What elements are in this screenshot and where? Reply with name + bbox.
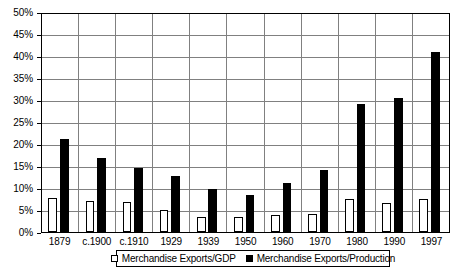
bar xyxy=(60,139,69,232)
category-group xyxy=(79,14,116,232)
bar xyxy=(246,195,255,232)
bar xyxy=(134,168,143,232)
bar xyxy=(234,217,243,232)
legend-item-exports-production: Merchandise Exports/Production xyxy=(246,253,396,264)
category-group xyxy=(190,14,227,232)
bar xyxy=(382,203,391,232)
bar xyxy=(97,158,106,232)
bar xyxy=(171,176,180,232)
bar xyxy=(160,210,169,232)
y-axis: 50%45%40%35%30%25%20%15%10%5%0% xyxy=(0,0,38,272)
legend-label-exports-production: Merchandise Exports/Production xyxy=(257,253,396,264)
y-tick-label: 35% xyxy=(13,74,33,84)
y-tick-mark xyxy=(37,233,41,234)
category-group xyxy=(227,14,264,232)
bar xyxy=(123,202,132,232)
bar xyxy=(308,214,317,232)
category-group xyxy=(42,14,79,232)
y-tick-label: 0% xyxy=(19,228,33,238)
bar xyxy=(431,52,440,232)
category-group xyxy=(116,14,153,232)
category-group xyxy=(413,14,449,232)
open-square-icon xyxy=(111,255,118,262)
category-group xyxy=(376,14,413,232)
bar xyxy=(345,199,354,232)
bar xyxy=(208,189,217,232)
solid-square-icon xyxy=(246,255,253,262)
y-tick-label: 50% xyxy=(13,8,33,18)
bar xyxy=(283,183,292,232)
category-group xyxy=(153,14,190,232)
bar xyxy=(48,198,57,232)
y-tick-label: 20% xyxy=(13,140,33,150)
legend-item-exports-gdp: Merchandise Exports/GDP xyxy=(111,253,236,264)
bar xyxy=(271,215,280,232)
category-group xyxy=(339,14,376,232)
x-tick-label: 1879 xyxy=(41,236,78,252)
chart-legend: Merchandise Exports/GDP Merchandise Expo… xyxy=(116,250,390,267)
bar xyxy=(320,170,329,232)
bar xyxy=(357,104,366,232)
y-tick-label: 15% xyxy=(13,162,33,172)
legend-label-exports-gdp: Merchandise Exports/GDP xyxy=(122,253,236,264)
y-tick-label: 5% xyxy=(19,206,33,216)
bars-layer xyxy=(42,14,449,232)
y-tick-label: 40% xyxy=(13,52,33,62)
category-group xyxy=(302,14,339,232)
category-group xyxy=(265,14,302,232)
x-tick-label: 1997 xyxy=(413,236,450,252)
y-tick-label: 10% xyxy=(13,184,33,194)
bar-chart: 50%45%40%35%30%25%20%15%10%5%0% 1879c.19… xyxy=(0,0,461,272)
bar xyxy=(86,201,95,232)
plot-area xyxy=(41,13,450,233)
bar xyxy=(394,98,403,232)
y-tick-label: 45% xyxy=(13,30,33,40)
y-tick-label: 25% xyxy=(13,118,33,128)
bar xyxy=(419,199,428,232)
bar xyxy=(197,217,206,232)
y-tick-label: 30% xyxy=(13,96,33,106)
x-tick-label: c.1900 xyxy=(78,236,115,252)
